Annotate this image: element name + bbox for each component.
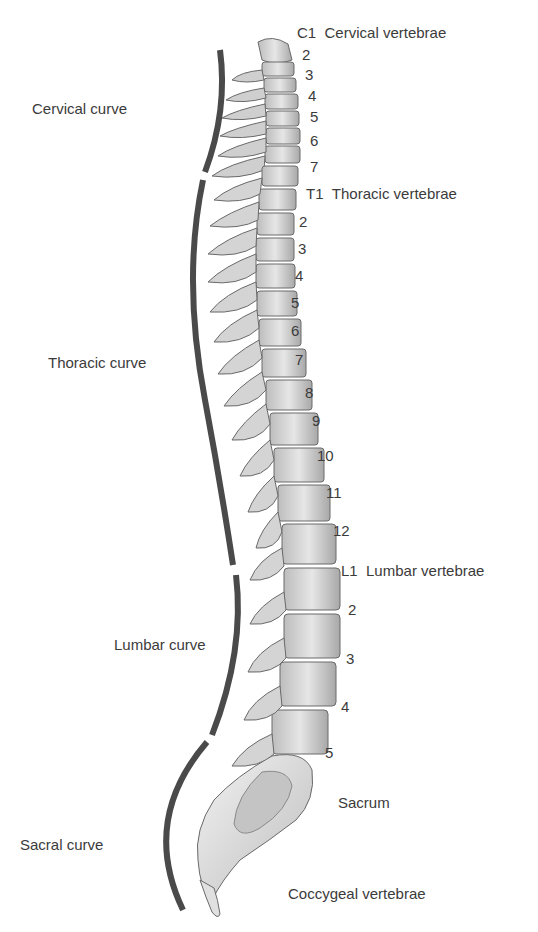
thoracic-curve-label: Thoracic curve <box>48 355 146 370</box>
spine-illustration <box>0 0 538 932</box>
lumbar-first-label: L1 Lumbar vertebrae <box>341 563 484 578</box>
lumbar-3: 3 <box>346 651 354 666</box>
cervical-vertebrae-label: Cervical vertebrae <box>325 24 447 41</box>
thoracic-4: 4 <box>295 268 303 283</box>
lumbar-vertebrae <box>232 524 340 766</box>
cervical-2: 2 <box>302 47 310 62</box>
thoracic-11: 11 <box>326 485 342 500</box>
lumbar-vertebrae-label: Lumbar vertebrae <box>366 562 484 579</box>
thoracic-vertebrae-label: Thoracic vertebrae <box>332 185 457 202</box>
thoracic-12: 12 <box>333 523 350 538</box>
cervical-4: 4 <box>308 88 316 103</box>
cervical-3: 3 <box>305 67 313 82</box>
cervical-5: 5 <box>310 109 318 124</box>
cervical-7: 7 <box>310 159 318 174</box>
cervical-6: 6 <box>310 133 318 148</box>
lumbar-curve-label: Lumbar curve <box>114 637 206 652</box>
thoracic-vertebrae <box>208 166 330 548</box>
thoracic-10: 10 <box>317 448 334 463</box>
sacrum-label: Sacrum <box>338 795 390 810</box>
thoracic-8: 8 <box>305 385 313 400</box>
c1-label: C1 <box>297 24 316 41</box>
lumbar-5: 5 <box>325 745 333 760</box>
l1-label: L1 <box>341 562 358 579</box>
thoracic-first-label: T1 Thoracic vertebrae <box>306 186 457 201</box>
cervical-curve-bar <box>205 50 222 172</box>
coccygeal-vertebrae-label: Coccygeal vertebrae <box>288 886 426 901</box>
cervical-first-label: C1 Cervical vertebrae <box>297 25 446 40</box>
thoracic-9: 9 <box>312 413 320 428</box>
cervical-curve-label: Cervical curve <box>32 101 127 116</box>
lumbar-curve-bar <box>212 575 238 735</box>
curve-bars <box>166 50 238 910</box>
cervical-vertebrae <box>212 38 300 177</box>
thoracic-3: 3 <box>298 241 306 256</box>
t1-label: T1 <box>306 185 324 202</box>
thoracic-2: 2 <box>299 214 307 229</box>
lumbar-2: 2 <box>348 602 356 617</box>
thoracic-7: 7 <box>295 352 303 367</box>
thoracic-5: 5 <box>291 295 299 310</box>
lumbar-4: 4 <box>341 699 349 714</box>
sacral-curve-label: Sacral curve <box>20 837 103 852</box>
thoracic-6: 6 <box>291 323 299 338</box>
